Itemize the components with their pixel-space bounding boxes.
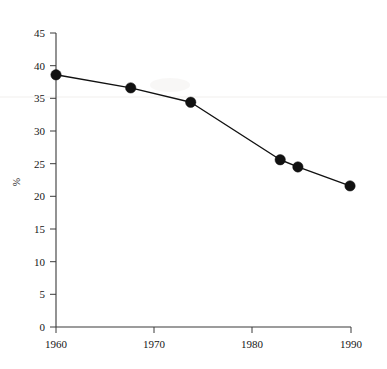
- y-tick-label-25: 25: [34, 158, 46, 170]
- x-tick-label-1960: 1960: [45, 338, 68, 350]
- x-tick-label-1980: 1980: [241, 338, 264, 350]
- y-tick-label-30: 30: [34, 125, 46, 137]
- x-tick-labels: 1960 1970 1980 1990: [45, 338, 363, 350]
- data-point: [126, 83, 136, 93]
- x-tick-label-1990: 1990: [340, 338, 363, 350]
- x-tick-label-1970: 1970: [143, 338, 166, 350]
- y-axis-group: 0 5 10 15 20 25 30 35 40 45 %: [11, 27, 56, 333]
- data-point: [275, 155, 285, 165]
- y-tick-label-15: 15: [34, 223, 46, 235]
- x-axis-group: 1960 1970 1980 1990: [45, 327, 363, 350]
- data-point: [186, 97, 196, 107]
- series-line: [56, 75, 350, 186]
- y-tick-label-40: 40: [34, 60, 46, 72]
- y-axis-title: %: [11, 178, 22, 186]
- data-series-layer: [51, 70, 355, 191]
- data-point: [345, 181, 355, 191]
- y-tick-label-10: 10: [34, 256, 46, 268]
- data-point: [293, 162, 303, 172]
- line-chart-svg: 0 5 10 15 20 25 30 35 40 45 %: [0, 0, 387, 369]
- series-markers: [51, 70, 355, 191]
- y-tick-label-35: 35: [34, 92, 46, 104]
- y-tick-label-45: 45: [34, 27, 46, 39]
- y-tick-label-20: 20: [34, 190, 46, 202]
- y-tick-label-0: 0: [40, 321, 46, 333]
- x-tick-marks: [56, 327, 351, 333]
- y-tick-label-5: 5: [40, 288, 46, 300]
- chart-container: 0 5 10 15 20 25 30 35 40 45 %: [0, 0, 387, 369]
- data-point: [51, 70, 61, 80]
- y-tick-labels: 0 5 10 15 20 25 30 35 40 45: [34, 27, 46, 333]
